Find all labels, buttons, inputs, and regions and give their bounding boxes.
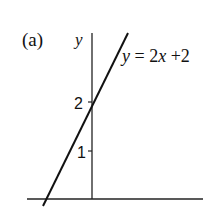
- line-y-equals-2x-plus-2: [43, 33, 128, 206]
- tick-label-2: 2: [74, 95, 83, 112]
- tick-label-1: 1: [77, 144, 86, 161]
- equation-label: y = 2x +2: [120, 46, 190, 66]
- panel-label: (a): [22, 29, 43, 51]
- y-axis-label: y: [73, 30, 83, 49]
- linear-function-graph: (a) y 2 1 y = 2x +2: [0, 0, 221, 209]
